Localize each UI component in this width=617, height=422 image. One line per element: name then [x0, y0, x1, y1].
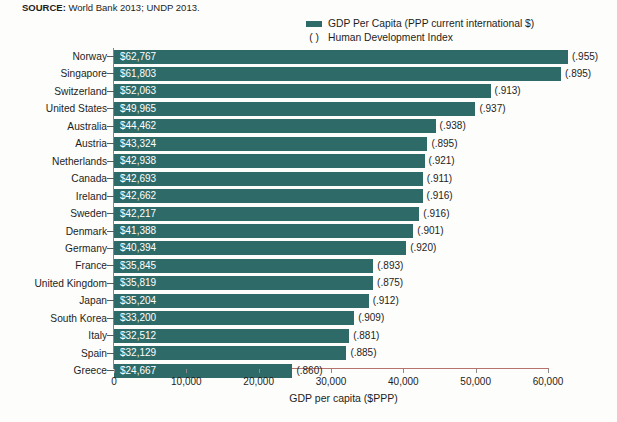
source-label: SOURCE: — [22, 2, 66, 13]
gdp-bar: $42,662 — [114, 189, 423, 203]
y-axis-tick — [107, 126, 114, 127]
bar-row: Sweden$42,217(.916) — [0, 205, 617, 222]
country-label: Germany — [65, 242, 107, 255]
gdp-bar: $42,693 — [114, 172, 423, 186]
bar-row: United Kingdom$35,819(.875) — [0, 275, 617, 292]
y-axis-tick — [107, 370, 114, 371]
y-axis-tick — [107, 248, 114, 249]
country-label: Switzerland — [54, 85, 107, 98]
gdp-value-label: $41,388 — [120, 225, 156, 237]
bar-row: Norway$62,767(.955) — [0, 48, 617, 65]
x-axis-title: GDP per capita ($PPP) — [0, 392, 617, 404]
gdp-value-label: $42,217 — [120, 208, 156, 220]
bar-row: Greece$24,667(.860) — [0, 362, 617, 379]
bar-row: Italy$32,512(.881) — [0, 327, 617, 344]
country-label: Canada — [71, 172, 107, 185]
x-axis-tick — [331, 369, 332, 373]
hdi-value-label: (.875) — [377, 277, 403, 289]
gdp-bar: $49,965 — [114, 102, 475, 116]
country-label: Spain — [81, 347, 107, 360]
hdi-value-label: (.955) — [572, 51, 598, 63]
gdp-value-label: $35,819 — [120, 277, 156, 289]
gdp-value-label: $49,965 — [120, 103, 156, 115]
bar-chart: Norway$62,767(.955)Singapore$61,803(.895… — [0, 46, 617, 376]
hdi-value-label: (.911) — [427, 173, 452, 185]
gdp-value-label: $24,667 — [120, 365, 156, 377]
gdp-bar: $61,803 — [114, 67, 561, 81]
legend-item-hdi: ( ) Human Development Index — [306, 31, 534, 45]
y-axis-tick — [107, 196, 114, 197]
y-axis-tick — [107, 91, 114, 92]
gdp-value-label: $33,200 — [120, 312, 156, 324]
x-axis-tick-label: 30,000 — [316, 375, 347, 388]
gdp-value-label: $52,063 — [120, 85, 156, 97]
x-axis-tick-label: 10,000 — [171, 375, 202, 388]
y-axis-tick — [107, 213, 114, 214]
gdp-bar: $35,204 — [114, 294, 369, 308]
hdi-value-label: (.921) — [429, 155, 455, 167]
gdp-bar: $42,217 — [114, 207, 419, 221]
gdp-value-label: $32,129 — [120, 347, 156, 359]
x-axis-tick-label: 40,000 — [388, 375, 419, 388]
country-label: Japan — [79, 294, 107, 307]
x-axis-tick-label: 50,000 — [460, 375, 491, 388]
hdi-value-label: (.916) — [427, 190, 453, 202]
hdi-value-label: (.913) — [495, 85, 521, 97]
bar-row: United States$49,965(.937) — [0, 100, 617, 117]
hdi-value-label: (.916) — [423, 208, 449, 220]
x-axis-tick — [403, 369, 404, 373]
bar-row: Germany$40,394(.920) — [0, 240, 617, 257]
x-axis-tick-label: 0 — [111, 375, 117, 388]
legend-label-hdi: Human Development Index — [328, 31, 453, 45]
country-label: Netherlands — [52, 155, 107, 168]
gdp-bar: $44,462 — [114, 119, 436, 133]
y-axis-tick — [107, 353, 114, 354]
gdp-bar: $41,388 — [114, 224, 413, 238]
source-line: SOURCE: World Bank 2013; UNDP 2013. — [22, 1, 200, 14]
y-axis-tick — [107, 108, 114, 109]
gdp-bar: $42,938 — [114, 154, 425, 168]
bar-row: Spain$32,129(.885) — [0, 345, 617, 362]
gdp-value-label: $35,204 — [120, 295, 156, 307]
x-axis-tick — [548, 369, 549, 373]
y-axis-tick — [107, 143, 114, 144]
hdi-value-label: (.901) — [417, 225, 443, 237]
y-axis-tick — [107, 56, 114, 57]
bar-row: Netherlands$42,938(.921) — [0, 153, 617, 170]
gdp-bar: $33,200 — [114, 311, 354, 325]
y-axis-tick — [107, 283, 114, 284]
hdi-value-label: (.909) — [358, 312, 384, 324]
bar-row: Austria$43,324(.895) — [0, 135, 617, 152]
country-label: Denmark — [66, 225, 107, 238]
gdp-value-label: $35,845 — [120, 260, 156, 272]
hdi-value-label: (.895) — [431, 138, 457, 150]
gdp-value-label: $42,662 — [120, 190, 156, 202]
y-axis-tick — [107, 265, 114, 266]
bar-row: France$35,845(.893) — [0, 257, 617, 274]
gdp-value-label: $44,462 — [120, 120, 156, 132]
chart-legend: GDP Per Capita (PPP current internationa… — [306, 17, 534, 44]
gdp-bar: $32,512 — [114, 329, 349, 343]
bar-row: Denmark$41,388(.901) — [0, 223, 617, 240]
bar-row: South Korea$33,200(.909) — [0, 310, 617, 327]
country-label: United Kingdom — [35, 277, 108, 290]
hdi-value-label: (.885) — [350, 347, 376, 359]
gdp-value-label: $61,803 — [120, 68, 156, 80]
y-axis-tick — [107, 231, 114, 232]
legend-swatch-icon — [306, 21, 322, 27]
x-axis-tick — [114, 369, 115, 373]
hdi-value-label: (.912) — [373, 295, 399, 307]
gdp-bar: $32,129 — [114, 346, 346, 360]
gdp-value-label: $42,938 — [120, 155, 156, 167]
x-axis-tick — [186, 369, 187, 373]
source-text: World Bank 2013; UNDP 2013. — [66, 2, 200, 13]
gdp-bar: $40,394 — [114, 241, 406, 255]
y-axis-tick — [107, 300, 114, 301]
country-label: Norway — [72, 50, 107, 63]
gdp-value-label: $32,512 — [120, 330, 156, 342]
gdp-bar: $35,819 — [114, 276, 373, 290]
gdp-bar: $52,063 — [114, 84, 491, 98]
y-axis-tick — [107, 335, 114, 336]
bar-row: Singapore$61,803(.895) — [0, 65, 617, 82]
country-label: Sweden — [70, 207, 107, 220]
